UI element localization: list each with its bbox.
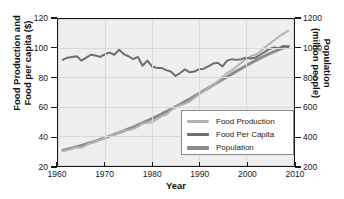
tick-bottom bbox=[199, 162, 200, 167]
tick-bottom bbox=[104, 162, 105, 167]
x-axis-title: Year bbox=[57, 180, 295, 191]
chart-figure: Food Production and Food per capita ($) … bbox=[0, 0, 344, 199]
gridline-horizontal bbox=[58, 77, 294, 78]
legend-label-food-per-capita: Food Per Capita bbox=[216, 130, 274, 139]
tick-right bbox=[295, 47, 301, 48]
tick-left bbox=[51, 77, 57, 78]
legend-swatch-food-per-capita bbox=[187, 133, 209, 136]
tick-label-left: 120 bbox=[14, 13, 48, 23]
tick-bottom bbox=[152, 162, 153, 167]
tick-label-right: 1200 bbox=[303, 13, 337, 23]
tick-label-bottom: 1980 bbox=[132, 169, 172, 179]
legend-swatch-population bbox=[187, 146, 209, 150]
tick-label-bottom: 2000 bbox=[227, 169, 267, 179]
gridline-vertical bbox=[105, 19, 106, 166]
tick-bottom bbox=[247, 162, 248, 167]
y-axis-left-title-line2: Food per capita ($) bbox=[22, 21, 33, 106]
legend-label-food-production: Food Production bbox=[216, 117, 275, 126]
tick-right bbox=[295, 17, 301, 18]
legend-item-food-per-capita: Food Per Capita bbox=[187, 128, 288, 141]
tick-bottom bbox=[56, 162, 57, 167]
legend-item-population: Population bbox=[187, 141, 288, 154]
tick-label-right: 800 bbox=[303, 73, 337, 83]
gridline-vertical bbox=[58, 19, 59, 166]
gridline-horizontal bbox=[58, 19, 294, 20]
legend-label-population: Population bbox=[216, 143, 254, 152]
tick-label-bottom: 2010 bbox=[275, 169, 315, 179]
tick-label-left: 60 bbox=[14, 102, 48, 112]
y-axis-left-title-line1: Food Production and bbox=[11, 15, 22, 111]
tick-left bbox=[51, 107, 57, 108]
gridline-horizontal bbox=[58, 107, 294, 108]
tick-right bbox=[295, 137, 301, 138]
tick-left bbox=[51, 47, 57, 48]
tick-label-left: 100 bbox=[14, 43, 48, 53]
tick-right bbox=[295, 77, 301, 78]
y-axis-right-title-line2: (million people) bbox=[311, 28, 322, 98]
tick-left bbox=[51, 17, 57, 18]
chart-legend: Food Production Food Per Capita Populati… bbox=[181, 110, 294, 155]
tick-label-bottom: 1960 bbox=[37, 169, 77, 179]
tick-label-bottom: 1970 bbox=[85, 169, 125, 179]
tick-label-left: 40 bbox=[14, 132, 48, 142]
gridline-horizontal bbox=[58, 48, 294, 49]
tick-right bbox=[295, 107, 301, 108]
gridline-horizontal bbox=[58, 165, 294, 166]
tick-label-right: 600 bbox=[303, 102, 337, 112]
tick-label-right: 400 bbox=[303, 132, 337, 142]
tick-left bbox=[51, 137, 57, 138]
legend-swatch-food-production bbox=[187, 120, 209, 123]
tick-label-right: 1000 bbox=[303, 43, 337, 53]
gridline-vertical bbox=[152, 19, 153, 166]
tick-label-left: 80 bbox=[14, 73, 48, 83]
legend-item-food-production: Food Production bbox=[187, 115, 288, 128]
tick-bottom bbox=[294, 162, 295, 167]
tick-label-bottom: 1990 bbox=[180, 169, 220, 179]
tick-right bbox=[295, 166, 301, 167]
